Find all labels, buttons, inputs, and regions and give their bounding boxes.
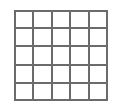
grid-cell[interactable] <box>14 28 33 46</box>
grid-cell[interactable] <box>52 65 71 83</box>
grid-cell[interactable] <box>70 28 89 46</box>
grid-cell[interactable] <box>14 83 33 101</box>
grid-cell[interactable] <box>33 46 52 64</box>
canvas <box>0 0 121 109</box>
grid-cell[interactable] <box>52 46 71 64</box>
grid-cell[interactable] <box>89 46 108 64</box>
grid-cell[interactable] <box>33 10 52 28</box>
grid-cell[interactable] <box>52 28 71 46</box>
grid-cell[interactable] <box>33 83 52 101</box>
grid-cell[interactable] <box>70 46 89 64</box>
grid-cell[interactable] <box>89 83 108 101</box>
grid-cell-group <box>14 10 108 101</box>
grid-cell[interactable] <box>70 83 89 101</box>
grid-cell[interactable] <box>33 65 52 83</box>
grid-cell[interactable] <box>14 65 33 83</box>
grid-cell[interactable] <box>89 28 108 46</box>
grid-cell[interactable] <box>89 10 108 28</box>
grid-svg <box>14 10 108 101</box>
grid-cell[interactable] <box>52 83 71 101</box>
grid-cell[interactable] <box>14 10 33 28</box>
grid-cell[interactable] <box>52 10 71 28</box>
grid-cell[interactable] <box>33 28 52 46</box>
grid-cell[interactable] <box>70 10 89 28</box>
grid-cell[interactable] <box>89 65 108 83</box>
grid-cell[interactable] <box>14 46 33 64</box>
grid-figure <box>14 10 108 101</box>
grid-cell[interactable] <box>70 65 89 83</box>
